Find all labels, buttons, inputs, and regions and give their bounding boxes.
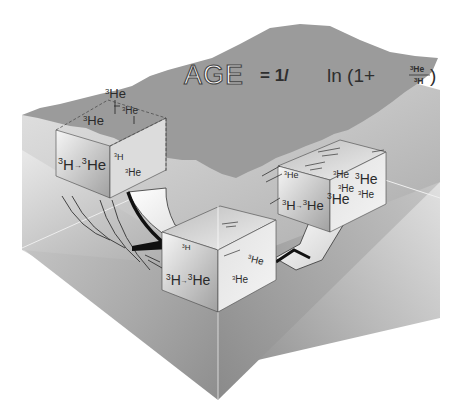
surface-top-he-2: 3He [122, 105, 139, 116]
surface-side-he: 3He [125, 167, 142, 178]
formula-ln: ln (1+ [327, 65, 375, 86]
formula-age: AGE [184, 60, 244, 90]
deep-front-small: 3He [284, 170, 299, 180]
middle-side-he-2: 3He [232, 274, 249, 285]
formula-close-paren: ) [430, 65, 436, 86]
deep-side-he-1: 3He [333, 169, 350, 180]
formula-equals: = 1/ [260, 66, 289, 85]
groundwater-age-diagram: AGE = 1/ ln (1+ 3He 3H ) 3He [0, 0, 458, 414]
deep-side-he-5: 3He [358, 189, 375, 200]
